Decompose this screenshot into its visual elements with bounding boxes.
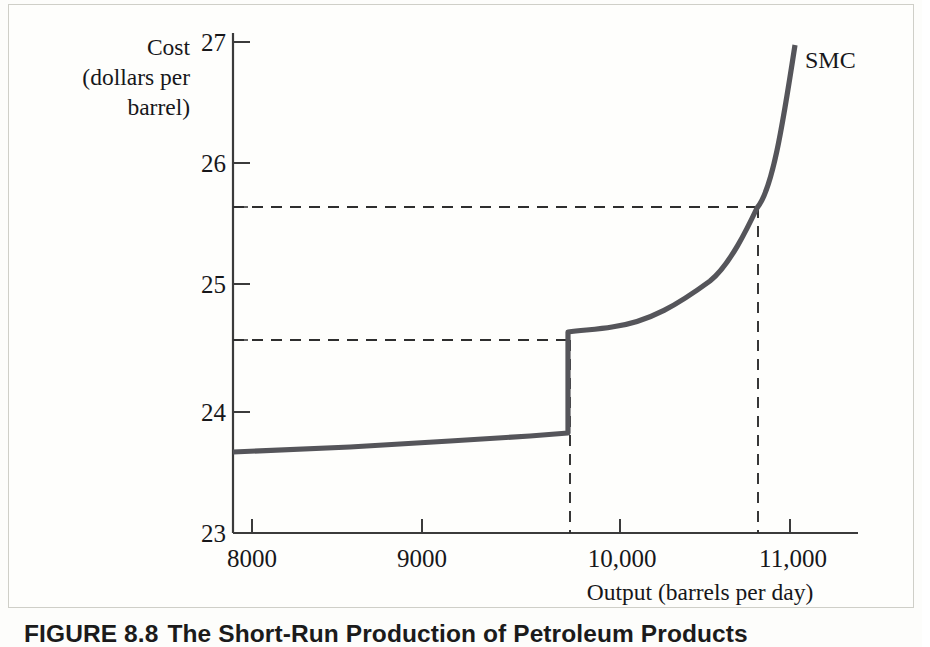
guide-lines (233, 207, 758, 533)
y-ticklabel-23: 23 (201, 520, 226, 547)
smc-curve-label: SMC (805, 47, 856, 73)
chart-plot-area: 27 26 25 24 23 8000 9000 10,000 11,000 C… (0, 0, 930, 620)
y-ticklabel-24: 24 (201, 399, 227, 426)
x-axis-ticks (252, 519, 790, 533)
figure-caption: FIGURE 8.8The Short-Run Production of Pe… (24, 620, 904, 647)
y-ticklabel-25: 25 (201, 271, 226, 298)
smc-curve (233, 45, 795, 452)
figure-caption-text: The Short-Run Production of Petroleum Pr… (167, 620, 747, 647)
y-axis-label-line1: Cost (147, 34, 191, 60)
y-axis-ticks (233, 42, 250, 412)
x-ticklabel-10000: 10,000 (588, 545, 657, 572)
figure-container: 27 26 25 24 23 8000 9000 10,000 11,000 C… (0, 0, 930, 647)
x-ticklabel-11000: 11,000 (759, 545, 827, 572)
y-axis-label-line2: (dollars per (82, 64, 190, 90)
figure-number: FIGURE 8.8 (24, 620, 158, 647)
y-ticklabel-27: 27 (201, 29, 226, 56)
y-ticklabel-26: 26 (201, 150, 226, 177)
x-ticklabel-9000: 9000 (397, 545, 447, 572)
page-right-margin (922, 0, 930, 647)
y-axis-label-line3: barrel) (127, 94, 190, 120)
x-axis-label: Output (barrels per day) (587, 579, 813, 605)
x-ticklabel-8000: 8000 (227, 545, 277, 572)
